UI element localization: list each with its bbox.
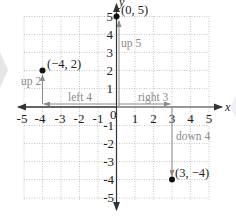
svg-text:2: 2	[150, 111, 157, 126]
svg-text:1: 1	[107, 81, 114, 96]
move-label-left-4: left 4	[68, 91, 92, 103]
point-neg4-2	[40, 68, 46, 74]
point-label-3-neg4: (3, −4)	[175, 166, 209, 180]
move-label-down-4: down 4	[176, 130, 210, 142]
point-label-0-5: (0, 5)	[121, 3, 148, 17]
point-0-5	[114, 14, 120, 20]
svg-text:-2: -2	[103, 136, 114, 151]
svg-text:1: 1	[132, 111, 139, 126]
svg-text:-5: -5	[17, 111, 28, 126]
svg-text:5: 5	[107, 9, 114, 24]
point-label-neg4-2: (−4, 2)	[47, 57, 81, 71]
svg-text:4: 4	[187, 111, 194, 126]
svg-text:-2: -2	[74, 111, 85, 126]
svg-text:-3: -3	[103, 154, 114, 169]
x-axis-label: x	[224, 100, 231, 114]
decorative-arrow-shape-right	[230, 96, 236, 118]
svg-text:2: 2	[107, 63, 114, 78]
svg-text:-1: -1	[103, 118, 114, 133]
svg-text:-5: -5	[103, 190, 114, 205]
move-label-right-3: right 3	[138, 91, 169, 104]
decorative-arrow-shape	[0, 52, 8, 88]
svg-text:3: 3	[107, 45, 114, 60]
svg-text:4: 4	[107, 27, 114, 42]
move-label-up-2: up 2	[21, 75, 41, 88]
svg-text:-1: -1	[93, 111, 104, 126]
svg-text:-4: -4	[35, 111, 46, 126]
svg-text:-4: -4	[103, 172, 114, 187]
svg-text:-3: -3	[55, 111, 66, 126]
coordinate-plane: x y -5 -4 -3 -2 -1 1 2 3 4 5 0 5 4 3 2 1…	[0, 0, 236, 222]
move-label-up-5: up 5	[121, 37, 141, 50]
svg-text:5: 5	[206, 111, 213, 126]
